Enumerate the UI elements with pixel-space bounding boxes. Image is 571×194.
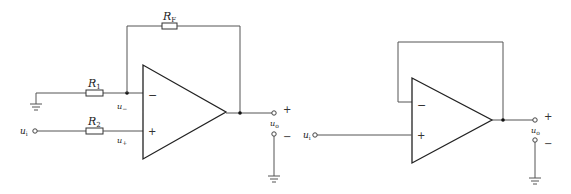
output-terminal-minus (533, 138, 537, 142)
label-output-uo: uo (531, 126, 540, 136)
opamp-plus-sign: + (417, 130, 425, 141)
ground-icon (268, 176, 280, 182)
label-node-minus: u− (117, 102, 127, 112)
junction-output (238, 111, 242, 115)
output-terminal-plus (533, 118, 537, 122)
label-r2: R2 (87, 115, 101, 129)
junction-output (501, 118, 505, 122)
circuit-diagram: R1 R2 RF ui u− u+ − + uo + − ui − + (0, 0, 571, 194)
right-circuit: ui − + uo + − (303, 42, 552, 184)
opamp-triangle (412, 78, 492, 163)
opamp-minus-sign: − (148, 89, 157, 102)
output-plus-sign: + (544, 111, 552, 122)
label-rf: RF (162, 10, 176, 24)
label-r1: R1 (87, 77, 101, 91)
label-node-plus: u+ (117, 136, 127, 146)
r1-ground-wire (36, 93, 86, 104)
output-terminal-minus (272, 132, 276, 136)
output-plus-sign: + (283, 104, 291, 115)
label-input-ui: ui (20, 126, 28, 137)
output-terminal-plus (272, 111, 276, 115)
ground-icon (529, 178, 541, 184)
ground-icon (30, 104, 42, 110)
opamp-triangle (143, 65, 226, 159)
opamp-plus-sign: + (148, 126, 156, 137)
input-terminal (313, 133, 317, 137)
output-minus-sign: − (283, 131, 291, 142)
opamp-minus-sign: − (417, 99, 426, 112)
label-output-uo: uo (270, 119, 279, 129)
output-minus-sign: − (544, 138, 552, 149)
left-circuit: R1 R2 RF ui u− u+ − + uo + − (20, 10, 291, 182)
label-input-ui: ui (303, 130, 311, 141)
input-terminal (33, 129, 37, 133)
